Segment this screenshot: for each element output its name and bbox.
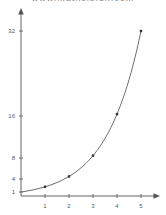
- x-tick-label-1: 1: [40, 203, 50, 209]
- y-tick-label-1: 1: [1, 189, 15, 195]
- chart-container: www.mathsisfun.com: [0, 0, 166, 215]
- data-point-4: [116, 113, 118, 115]
- data-point-2: [68, 175, 70, 177]
- x-tick-label-3: 3: [88, 203, 98, 209]
- y-axis-arrowhead: [18, 8, 24, 15]
- x-axis-arrowhead: [154, 193, 161, 199]
- x-tick-label-2: 2: [64, 203, 74, 209]
- y-tick-label-16: 16: [1, 113, 15, 119]
- x-tick-label-4: 4: [112, 203, 122, 209]
- y-tick-label-8: 8: [1, 155, 15, 161]
- data-point-5: [140, 30, 142, 32]
- x-tick-label-5: 5: [136, 203, 146, 209]
- x-axis: [21, 193, 160, 199]
- exponential-curve-plot: [0, 0, 166, 215]
- data-point-1: [44, 186, 46, 188]
- y-tick-label-4: 4: [1, 176, 15, 182]
- data-point-3: [92, 154, 94, 156]
- exponential-curve: [21, 31, 141, 192]
- y-tick-label-32: 32: [1, 28, 15, 34]
- data-point-markers: [44, 30, 142, 188]
- y-axis: [18, 8, 24, 196]
